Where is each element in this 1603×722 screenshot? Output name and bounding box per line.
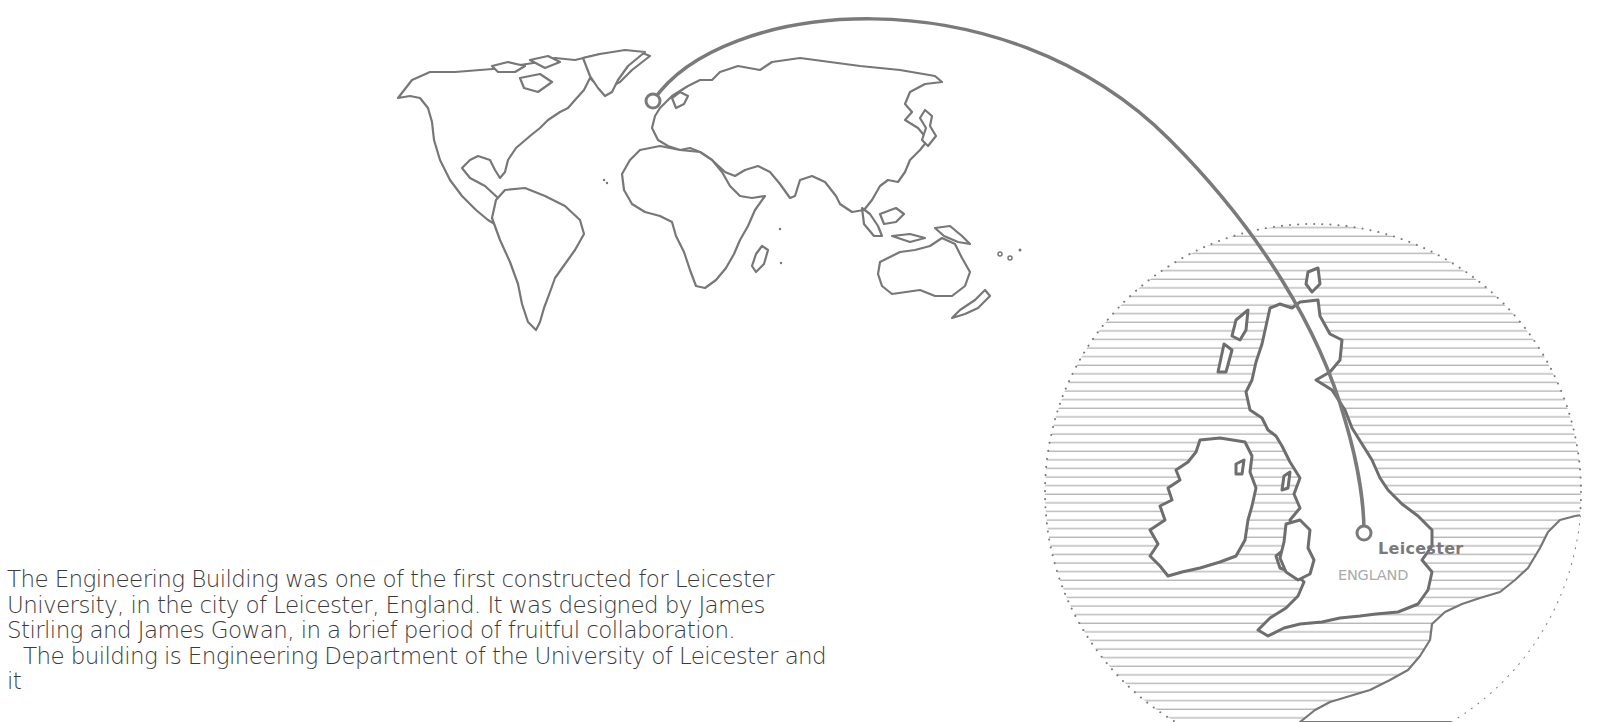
australia-outline [878,238,970,296]
caption-paragraph-1: The Engineering Building was one of the … [7,567,847,644]
indonesia-outline [862,208,970,244]
caption-text: The Engineering Building was one of the … [7,567,847,695]
world-map [398,50,1022,330]
greenland-outline [583,50,645,96]
leicester-marker [1357,526,1371,540]
japan-outline [920,110,936,146]
british-isles-inset [1045,224,1603,722]
region-label-england: ENGLAND [1338,567,1408,583]
city-label-leicester: Leicester [1378,539,1463,558]
origin-marker [646,94,660,108]
madagascar-outline [752,246,768,272]
lough-outline [1236,460,1244,474]
wales-outline [1280,520,1314,580]
south-america-outline [492,188,584,330]
new-zealand-outline [952,290,990,318]
caption-paragraph-2: The building is Engineering Department o… [7,644,847,695]
